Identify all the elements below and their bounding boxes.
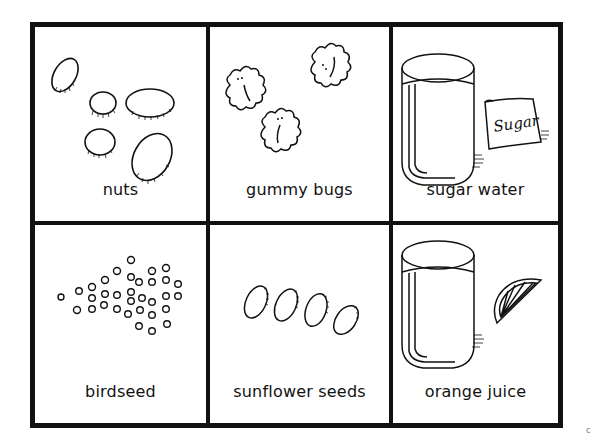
card-orange-juice[interactable]: orange juice (393, 225, 558, 423)
card-gummy-bugs[interactable]: gummy bugs (210, 27, 389, 221)
card-label: sunflower seeds (210, 382, 389, 401)
card-nuts[interactable]: nuts (35, 27, 206, 221)
card-label: birdseed (35, 382, 206, 401)
card-label: nuts (35, 180, 206, 199)
corner-mark: c (586, 426, 590, 435)
card-birdseed[interactable]: birdseed (35, 225, 206, 423)
card-sugar-water[interactable]: Sugar sugar water (393, 27, 558, 221)
sugar-bag-text: Sugar (492, 111, 541, 135)
card-label: orange juice (393, 382, 558, 401)
card-label: sugar water (393, 180, 558, 199)
picture-card-grid: nuts gummy bugs (30, 22, 563, 428)
card-label: gummy bugs (210, 180, 389, 199)
card-sunflower-seeds[interactable]: sunflower seeds (210, 225, 389, 423)
